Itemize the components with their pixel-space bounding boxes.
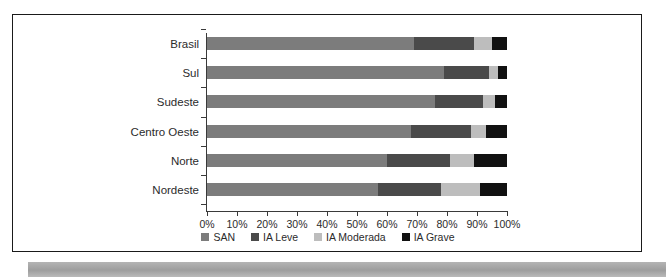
figure-root: BrasilSulSudesteCentro OesteNorteNordest… [0, 0, 666, 277]
x-axis-tick [267, 211, 268, 216]
bar-segment-ia-grave[interactable] [480, 183, 507, 196]
bar-segment-ia-moderada[interactable] [471, 125, 486, 138]
x-axis-tick [447, 211, 448, 216]
bar-segment-ia-leve[interactable] [411, 125, 471, 138]
bar-segment-san[interactable] [207, 183, 378, 196]
chart-legend: SANIA LeveIA ModeradaIA Grave [13, 231, 643, 243]
y-axis-tick [201, 29, 206, 30]
plot-area: BrasilSulSudesteCentro OesteNorteNordest… [13, 15, 643, 253]
bar-segment-san[interactable] [207, 37, 414, 50]
page-footer-band [28, 262, 666, 277]
y-axis-tick [201, 117, 206, 118]
x-axis-tick [237, 211, 238, 216]
bar-row[interactable] [207, 154, 507, 167]
bar-segment-ia-moderada[interactable] [450, 154, 474, 167]
legend-swatch-icon [201, 233, 209, 241]
category-label-nordeste: Nordeste [39, 184, 199, 196]
bar-segment-ia-moderada[interactable] [483, 95, 495, 108]
legend-item-san[interactable]: SAN [201, 231, 235, 243]
bar-segment-ia-grave[interactable] [492, 37, 507, 50]
legend-label: IA Grave [414, 231, 455, 243]
y-axis-tick [201, 58, 206, 59]
x-axis-tick [357, 211, 358, 216]
bar-segment-ia-leve[interactable] [444, 66, 489, 79]
bar-segment-san[interactable] [207, 154, 387, 167]
bar-segment-ia-grave[interactable] [495, 95, 507, 108]
category-label-brasil: Brasil [39, 38, 199, 50]
legend-item-ia-moderada[interactable]: IA Moderada [314, 231, 386, 243]
y-axis-tick [201, 204, 206, 205]
category-label-norte: Norte [39, 155, 199, 167]
bar-row[interactable] [207, 183, 507, 196]
x-axis-tick [207, 211, 208, 216]
x-axis-tick [417, 211, 418, 216]
y-axis-tick [201, 87, 206, 88]
bar-segment-ia-leve[interactable] [435, 95, 483, 108]
bar-segment-ia-leve[interactable] [378, 183, 441, 196]
bar-segment-ia-moderada[interactable] [489, 66, 498, 79]
x-axis-tick [327, 211, 328, 216]
bar-segment-ia-leve[interactable] [414, 37, 474, 50]
bar-segment-san[interactable] [207, 66, 444, 79]
legend-label: IA Leve [263, 231, 298, 243]
x-axis-tick-label: 100% [487, 218, 527, 230]
x-axis-tick [297, 211, 298, 216]
legend-item-ia-leve[interactable]: IA Leve [251, 231, 298, 243]
legend-swatch-icon [251, 233, 259, 241]
legend-swatch-icon [314, 233, 322, 241]
bar-segment-san[interactable] [207, 95, 435, 108]
legend-label: SAN [213, 231, 235, 243]
y-axis-tick [201, 175, 206, 176]
x-axis-tick [387, 211, 388, 216]
bar-row[interactable] [207, 95, 507, 108]
legend-swatch-icon [402, 233, 410, 241]
bar-segment-ia-leve[interactable] [387, 154, 450, 167]
bar-row[interactable] [207, 125, 507, 138]
x-axis-tick [477, 211, 478, 216]
y-axis-tick [201, 146, 206, 147]
bar-segment-ia-moderada[interactable] [441, 183, 480, 196]
category-label-sudeste: Sudeste [39, 96, 199, 108]
x-axis-tick [507, 211, 508, 216]
category-label-centro-oeste: Centro Oeste [39, 126, 199, 138]
bar-row[interactable] [207, 37, 507, 50]
bar-segment-ia-grave[interactable] [474, 154, 507, 167]
bar-segment-ia-grave[interactable] [498, 66, 507, 79]
legend-label: IA Moderada [326, 231, 386, 243]
bar-row[interactable] [207, 66, 507, 79]
bar-segment-san[interactable] [207, 125, 411, 138]
chart-frame: BrasilSulSudesteCentro OesteNorteNordest… [12, 14, 642, 252]
bar-segment-ia-grave[interactable] [486, 125, 507, 138]
bar-segment-ia-moderada[interactable] [474, 37, 492, 50]
legend-item-ia-grave[interactable]: IA Grave [402, 231, 455, 243]
category-label-sul: Sul [39, 67, 199, 79]
